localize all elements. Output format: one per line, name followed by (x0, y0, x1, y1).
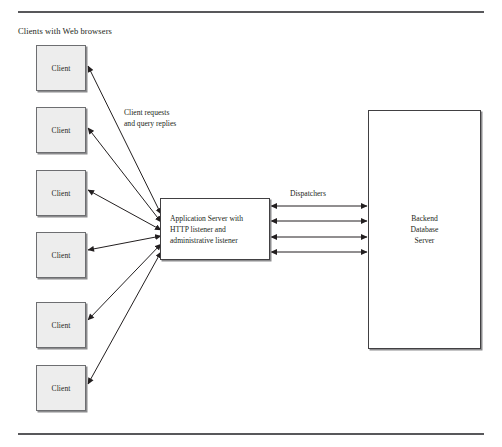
client-node-label: Client (52, 321, 71, 330)
bottom-divider-rule (18, 433, 484, 435)
client-node-label: Client (52, 189, 71, 198)
application-server-label: Application Server with HTTP listener an… (170, 213, 243, 246)
clients-caption: Clients with Web browsers (18, 26, 112, 36)
top-divider-rule (18, 11, 484, 13)
client-requests-annotation: Client requests and query replies (124, 107, 176, 129)
client-link-1 (88, 66, 161, 214)
client-node-label: Client (52, 126, 71, 135)
diagram-canvas: Clients with Web browsers Client (0, 0, 502, 447)
client-node-label: Client (52, 384, 71, 393)
client-node-2[interactable]: Client (36, 107, 86, 153)
client-node-3[interactable]: Client (36, 170, 86, 216)
application-server-node[interactable]: Application Server with HTTP listener an… (160, 198, 270, 260)
dispatchers-annotation: Dispatchers (290, 188, 326, 199)
backend-database-server-node[interactable]: Backend Database Server (368, 110, 481, 349)
client-node-1[interactable]: Client (36, 45, 86, 91)
backend-database-server-label: Backend Database Server (411, 213, 439, 246)
client-node-4[interactable]: Client (36, 232, 86, 278)
client-node-5[interactable]: Client (36, 302, 86, 348)
dispatcher-connector-group (271, 206, 367, 252)
client-link-3 (88, 190, 161, 230)
client-node-label: Client (52, 251, 71, 260)
client-link-4 (88, 236, 161, 250)
client-node-6[interactable]: Client (36, 365, 86, 411)
client-node-label: Client (52, 64, 71, 73)
client-link-5 (88, 244, 161, 320)
client-link-2 (88, 128, 161, 222)
client-link-6 (88, 252, 161, 384)
